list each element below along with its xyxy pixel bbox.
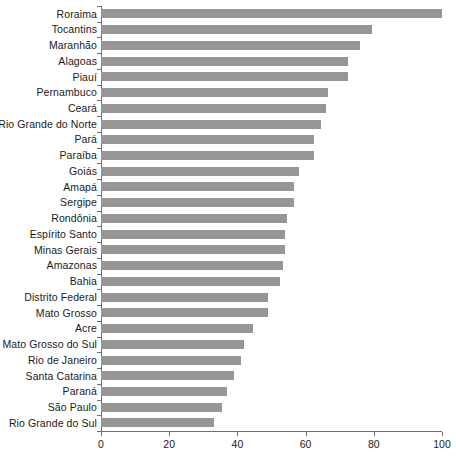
plot-area bbox=[101, 6, 442, 431]
bar bbox=[101, 72, 348, 81]
bar bbox=[101, 57, 348, 66]
bar-row bbox=[101, 179, 442, 195]
category-label: Sergipe bbox=[60, 197, 97, 208]
bar-row bbox=[101, 37, 442, 53]
bar-row bbox=[101, 148, 442, 164]
bar bbox=[101, 308, 268, 317]
category-label: Amapá bbox=[63, 182, 97, 193]
bar-row bbox=[101, 321, 442, 337]
y-axis-tick-label: Sergipe bbox=[0, 195, 97, 211]
bar-row bbox=[101, 163, 442, 179]
x-axis-tick-label: 60 bbox=[300, 438, 312, 450]
y-axis-tick-label: Rio Grande do Norte bbox=[0, 116, 97, 132]
bar bbox=[101, 371, 234, 380]
y-axis-tick-label: Pará bbox=[0, 132, 97, 148]
y-axis-tick-label: Minas Gerais bbox=[0, 242, 97, 258]
bar bbox=[101, 261, 283, 270]
category-label: Piauí bbox=[73, 72, 97, 83]
y-axis-tick-label: Mato Grosso do Sul bbox=[0, 336, 97, 352]
y-axis-tick-label: Paraná bbox=[0, 384, 97, 400]
bar-row bbox=[101, 195, 442, 211]
bar bbox=[101, 167, 299, 176]
y-axis-tick-label: Piauí bbox=[0, 69, 97, 85]
bar bbox=[101, 9, 442, 18]
y-axis-tick-label: Mato Grosso bbox=[0, 305, 97, 321]
bar-row bbox=[101, 273, 442, 289]
x-axis-tick bbox=[237, 432, 238, 436]
category-label: Pará bbox=[74, 134, 97, 145]
y-axis-tick-label: Maranhão bbox=[0, 37, 97, 53]
y-axis-tick-label: Roraima bbox=[0, 6, 97, 22]
y-axis-tick-label: Ceará bbox=[0, 100, 97, 116]
bar-row bbox=[101, 336, 442, 352]
category-label: Roraima bbox=[57, 9, 97, 20]
y-axis-tick-label: Rio Grande do Sul bbox=[0, 415, 97, 431]
bar-row bbox=[101, 85, 442, 101]
bar-row bbox=[101, 116, 442, 132]
x-axis-tick bbox=[169, 432, 170, 436]
y-axis-tick-label: São Paulo bbox=[0, 399, 97, 415]
bar-row bbox=[101, 399, 442, 415]
bar bbox=[101, 151, 314, 160]
bar bbox=[101, 356, 241, 365]
bar-row bbox=[101, 384, 442, 400]
bar-row bbox=[101, 132, 442, 148]
category-label: Rio de Janeiro bbox=[28, 355, 97, 366]
bar bbox=[101, 120, 321, 129]
y-axis-tick-label: Bahia bbox=[0, 273, 97, 289]
x-axis-tick bbox=[101, 432, 102, 436]
bar-row bbox=[101, 242, 442, 258]
category-label: Maranhão bbox=[49, 40, 97, 51]
bar-row bbox=[101, 289, 442, 305]
y-axis-tick-label: Rondônia bbox=[0, 211, 97, 227]
y-axis-tick-label: Pernambuco bbox=[0, 85, 97, 101]
bar bbox=[101, 387, 227, 396]
category-label: Minas Gerais bbox=[34, 245, 97, 256]
category-label: Paraná bbox=[63, 386, 97, 397]
bar bbox=[101, 88, 328, 97]
category-label: Tocantins bbox=[52, 24, 97, 35]
y-axis-tick-label: Tocantins bbox=[0, 22, 97, 38]
bar bbox=[101, 293, 268, 302]
bar bbox=[101, 198, 294, 207]
category-label: Ceará bbox=[68, 103, 97, 114]
y-axis-tick-label: Espírito Santo bbox=[0, 226, 97, 242]
bar-row bbox=[101, 226, 442, 242]
x-axis-tick bbox=[374, 432, 375, 436]
bar-row bbox=[101, 415, 442, 431]
bar bbox=[101, 135, 314, 144]
bar bbox=[101, 340, 244, 349]
bar bbox=[101, 418, 214, 427]
x-axis-tick-label: 100 bbox=[433, 438, 451, 450]
bar-row bbox=[101, 100, 442, 116]
category-label: Distrito Federal bbox=[24, 292, 97, 303]
bar-row bbox=[101, 6, 442, 22]
bar bbox=[101, 324, 253, 333]
category-label: Rio Grande do Norte bbox=[0, 119, 97, 130]
category-label: São Paulo bbox=[48, 402, 97, 413]
x-axis-tick bbox=[442, 432, 443, 436]
category-label: Amazonas bbox=[47, 260, 97, 271]
bar-row bbox=[101, 69, 442, 85]
category-label: Mato Grosso do Sul bbox=[2, 339, 97, 350]
bar-row bbox=[101, 305, 442, 321]
category-label: Mato Grosso bbox=[36, 308, 97, 319]
bar bbox=[101, 230, 285, 239]
bar-row bbox=[101, 53, 442, 69]
y-axis-tick-label: Santa Catarina bbox=[0, 368, 97, 384]
bar-row bbox=[101, 22, 442, 38]
category-label: Rio Grande do Sul bbox=[9, 418, 97, 429]
category-label: Alagoas bbox=[58, 56, 97, 67]
x-axis-line bbox=[101, 431, 442, 432]
category-label: Acre bbox=[75, 323, 97, 334]
category-label: Bahia bbox=[70, 276, 97, 287]
y-axis-tick-label: Acre bbox=[0, 321, 97, 337]
bar bbox=[101, 403, 222, 412]
bar bbox=[101, 214, 287, 223]
bar-row bbox=[101, 258, 442, 274]
y-axis-labels: RoraimaTocantinsMaranhãoAlagoasPiauíPern… bbox=[0, 6, 97, 431]
bar bbox=[101, 245, 285, 254]
bar bbox=[101, 41, 360, 50]
bar-row bbox=[101, 211, 442, 227]
category-label: Pernambuco bbox=[36, 87, 97, 98]
